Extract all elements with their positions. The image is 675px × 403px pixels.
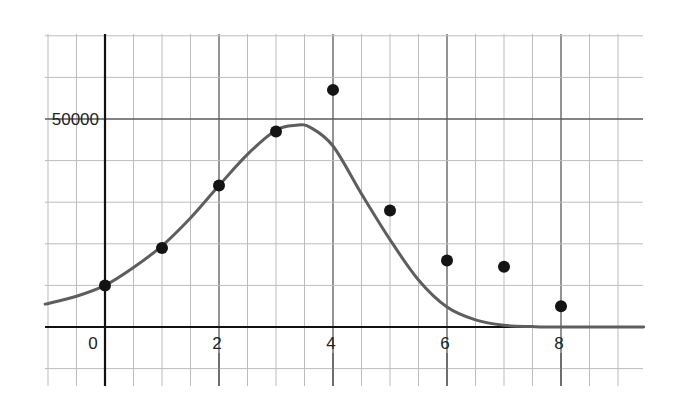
data-point [156,242,168,254]
x-tick-label-2: 2 [212,334,221,353]
chart-background [0,0,675,403]
data-point [213,180,225,192]
data-point [270,125,282,137]
chart: 50000 0 2 4 6 8 [0,0,675,403]
y-tick-label-50000: 50000 [52,110,99,129]
x-tick-label-0: 0 [88,334,97,353]
data-point [327,84,339,96]
x-tick-label-6: 6 [440,334,449,353]
data-point [99,279,111,291]
data-point [441,254,453,266]
x-tick-label-8: 8 [554,334,563,353]
data-point [555,300,567,312]
x-tick-label-4: 4 [326,334,335,353]
data-point [498,261,510,273]
data-point [384,205,396,217]
